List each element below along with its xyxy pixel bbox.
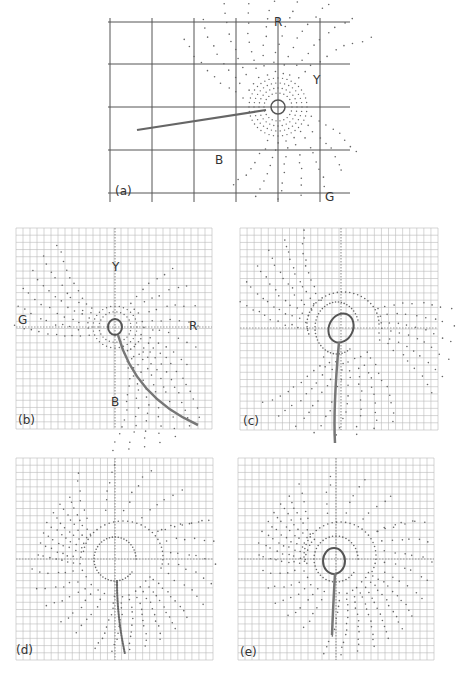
panel-label-d: (d) <box>16 643 33 657</box>
trajectory-curve <box>335 342 340 443</box>
axis-label-b: B <box>111 395 119 409</box>
panel-a: R Y B G (a) <box>0 0 467 210</box>
panel-label-a: (a) <box>115 184 132 198</box>
panel-label-c: (c) <box>243 414 259 428</box>
axis-label-g: G <box>18 313 27 327</box>
trajectory-line <box>137 110 266 130</box>
panel-e-plot <box>230 455 467 673</box>
panel-b: Y G R B (b) <box>0 220 230 440</box>
axis-label-r: R <box>274 15 282 29</box>
axis-label-b: B <box>215 153 223 167</box>
panel-label-e: (e) <box>240 645 257 659</box>
panel-a-plot <box>0 0 467 210</box>
grid <box>240 228 438 430</box>
panel-label-b: (b) <box>18 413 35 427</box>
panel-c: (c) <box>230 220 467 445</box>
data-points <box>258 476 433 656</box>
panel-d-plot <box>0 455 230 673</box>
axis-label-g: G <box>325 190 334 204</box>
panel-e: (e) <box>230 455 467 673</box>
trajectory-curve <box>118 335 198 425</box>
data-points <box>137 0 372 200</box>
panel-c-plot <box>230 220 467 445</box>
axis-label-r: R <box>189 319 197 333</box>
panel-d: (d) <box>0 455 230 673</box>
axis-label-y: Y <box>112 260 119 274</box>
axis-label-y: Y <box>313 73 320 87</box>
